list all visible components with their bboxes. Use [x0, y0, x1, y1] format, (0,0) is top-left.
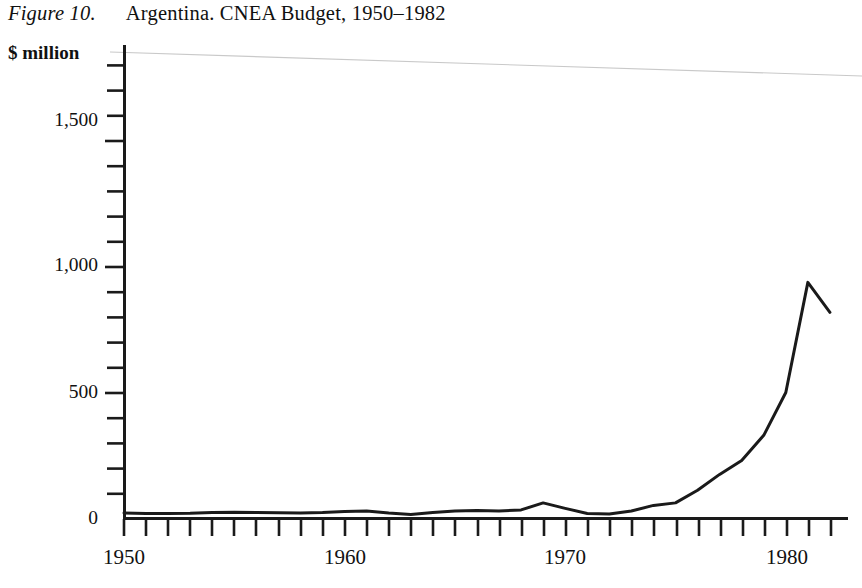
scan-artifact-line [110, 52, 862, 76]
x-axis-ticks [124, 519, 831, 536]
chart-plot-area: $ million 1,500 1,000 500 0 1950 1960 19… [0, 0, 862, 588]
chart-svg-canvas [0, 0, 862, 588]
figure-root: Figure 10.Argentina. CNEA Budget, 1950–1… [0, 0, 862, 588]
budget-data-line [124, 282, 830, 514]
y-axis-ticks [105, 65, 124, 493]
